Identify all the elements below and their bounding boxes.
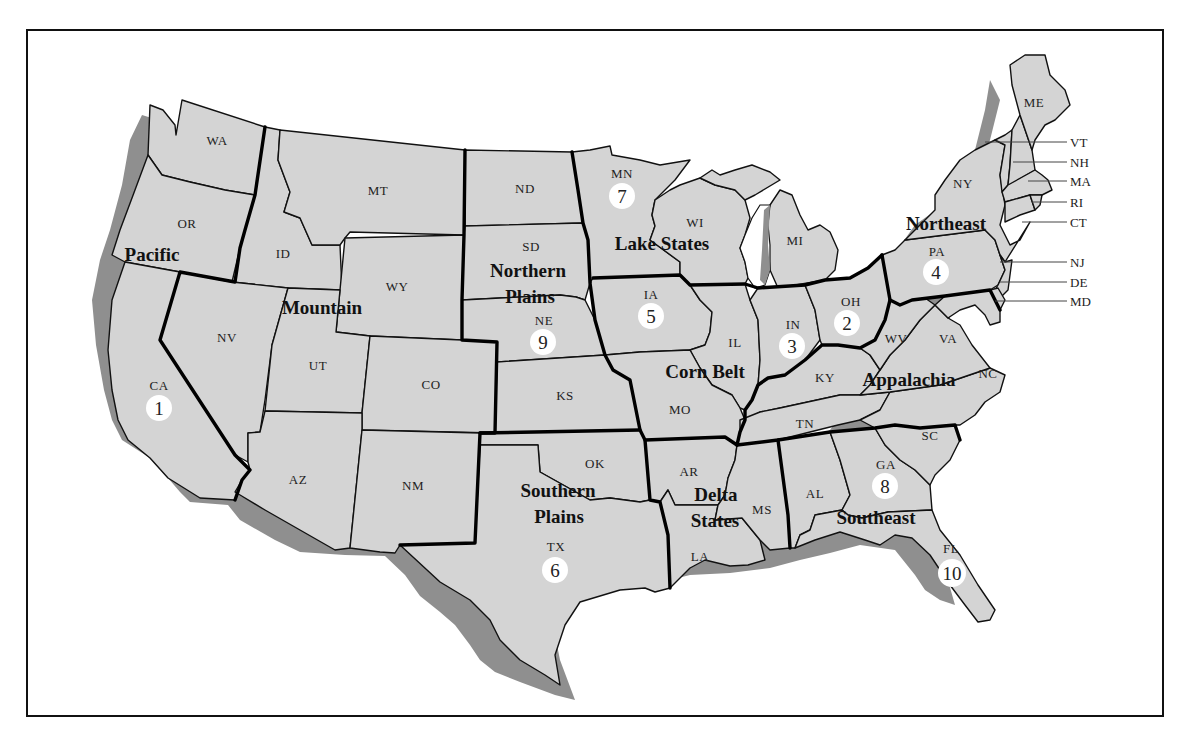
region-delta-states-2: States bbox=[691, 510, 740, 531]
label-nm: NM bbox=[402, 478, 424, 493]
label-mn: MN bbox=[611, 166, 633, 181]
region-southern-plains-1: Southern bbox=[521, 480, 596, 501]
label-tn: TN bbox=[796, 416, 814, 431]
label-wv: WV bbox=[885, 331, 908, 346]
region-lake-states: Lake States bbox=[615, 233, 709, 254]
label-tx: TX bbox=[547, 539, 565, 554]
label-va: VA bbox=[939, 331, 957, 346]
svg-text:2: 2 bbox=[842, 313, 852, 334]
us-farm-regions-map: WA OR CA ID NV MT WY UT CO AZ NM ND SD N… bbox=[0, 0, 1197, 748]
region-northern-plains-1: Northern bbox=[490, 260, 566, 281]
label-sd: SD bbox=[522, 239, 540, 254]
label-ne: NE bbox=[535, 313, 553, 328]
label-ca: CA bbox=[149, 378, 168, 393]
callout-nh: NH bbox=[1070, 155, 1089, 170]
label-mt: MT bbox=[368, 183, 389, 198]
label-wa: WA bbox=[206, 133, 227, 148]
svg-text:10: 10 bbox=[943, 563, 962, 584]
label-ga: GA bbox=[876, 457, 896, 472]
region-delta-states-1: Delta bbox=[694, 484, 738, 505]
label-id: ID bbox=[276, 246, 291, 261]
label-ut: UT bbox=[309, 358, 327, 373]
label-ms: MS bbox=[752, 502, 772, 517]
marker-1: 1 bbox=[146, 395, 172, 421]
svg-text:6: 6 bbox=[550, 560, 560, 581]
label-nd: ND bbox=[515, 181, 535, 196]
label-oh: OH bbox=[841, 294, 861, 309]
label-ks: KS bbox=[556, 388, 574, 403]
marker-6: 6 bbox=[542, 557, 568, 583]
marker-3: 3 bbox=[779, 333, 805, 359]
label-ok: OK bbox=[585, 456, 605, 471]
label-sc: SC bbox=[922, 428, 939, 443]
region-mountain: Mountain bbox=[282, 297, 363, 318]
label-pa: PA bbox=[929, 244, 946, 259]
label-nv: NV bbox=[217, 330, 237, 345]
region-appalachia: Appalachia bbox=[863, 369, 956, 390]
callout-de: DE bbox=[1070, 275, 1087, 290]
label-in: IN bbox=[786, 317, 801, 332]
svg-text:1: 1 bbox=[154, 398, 164, 419]
label-az: AZ bbox=[289, 472, 307, 487]
label-ar: AR bbox=[679, 464, 698, 479]
marker-2: 2 bbox=[834, 310, 860, 336]
svg-text:9: 9 bbox=[538, 332, 548, 353]
label-ky: KY bbox=[815, 370, 835, 385]
label-wi: WI bbox=[686, 215, 704, 230]
region-pacific: Pacific bbox=[125, 244, 180, 265]
marker-4: 4 bbox=[923, 259, 949, 285]
label-me: ME bbox=[1024, 95, 1045, 110]
label-mi: MI bbox=[787, 233, 804, 248]
callout-ct: CT bbox=[1070, 215, 1087, 230]
callout-nj: NJ bbox=[1070, 255, 1084, 270]
label-il: IL bbox=[728, 335, 741, 350]
label-mo: MO bbox=[669, 402, 691, 417]
svg-text:3: 3 bbox=[787, 336, 797, 357]
svg-text:7: 7 bbox=[617, 186, 627, 207]
marker-5: 5 bbox=[638, 303, 664, 329]
label-co: CO bbox=[421, 377, 440, 392]
marker-9: 9 bbox=[530, 329, 556, 355]
region-southeast: Southeast bbox=[836, 507, 916, 528]
label-ia: IA bbox=[644, 287, 659, 302]
callout-md: MD bbox=[1070, 294, 1091, 309]
label-nc: NC bbox=[978, 366, 997, 381]
svg-text:5: 5 bbox=[646, 306, 656, 327]
callout-ri: RI bbox=[1070, 195, 1083, 210]
svg-text:8: 8 bbox=[880, 476, 890, 497]
callout-vt: VT bbox=[1070, 135, 1087, 150]
label-ny: NY bbox=[953, 176, 973, 191]
callout-ma: MA bbox=[1070, 174, 1092, 189]
label-la: LA bbox=[691, 549, 709, 564]
svg-text:4: 4 bbox=[931, 262, 941, 283]
label-wy: WY bbox=[386, 279, 409, 294]
region-southern-plains-2: Plains bbox=[534, 506, 584, 527]
label-fl: FL bbox=[943, 541, 959, 556]
region-northern-plains-2: Plains bbox=[505, 286, 555, 307]
marker-10: 10 bbox=[938, 559, 966, 587]
marker-8: 8 bbox=[872, 473, 898, 499]
label-or: OR bbox=[177, 216, 196, 231]
region-corn-belt: Corn Belt bbox=[665, 361, 745, 382]
region-northeast: Northeast bbox=[906, 213, 987, 234]
label-al: AL bbox=[806, 486, 824, 501]
marker-7: 7 bbox=[609, 183, 635, 209]
